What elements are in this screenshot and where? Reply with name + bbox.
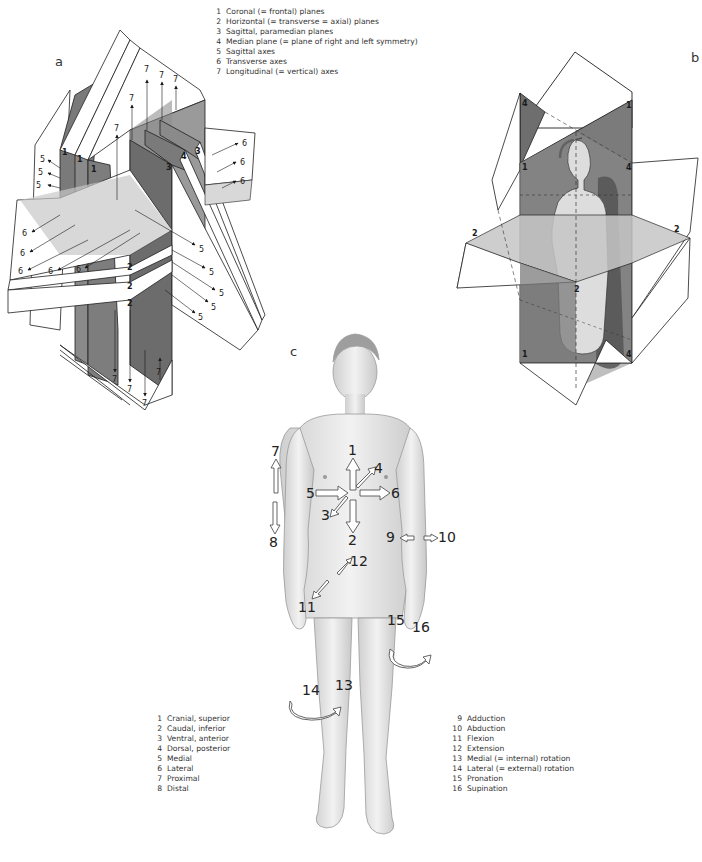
svg-text:6: 6	[18, 267, 23, 276]
legend-item: 5Medial	[154, 754, 230, 764]
svg-text:5: 5	[36, 181, 41, 190]
svg-text:5: 5	[211, 303, 216, 312]
svg-text:5: 5	[198, 313, 203, 322]
svg-text:6: 6	[48, 267, 53, 276]
svg-text:2: 2	[674, 225, 680, 234]
legend-item: 8Distal	[154, 784, 230, 794]
legend-item: 6Lateral	[154, 764, 230, 774]
svg-text:5: 5	[306, 485, 315, 501]
svg-text:5: 5	[38, 168, 43, 177]
svg-text:6: 6	[76, 265, 81, 274]
svg-text:7: 7	[173, 75, 178, 84]
svg-text:7: 7	[159, 71, 164, 80]
svg-text:1: 1	[91, 165, 97, 174]
svg-text:7: 7	[127, 385, 132, 394]
svg-text:10: 10	[438, 529, 456, 545]
svg-text:7: 7	[271, 443, 280, 459]
svg-text:2: 2	[127, 282, 133, 291]
human-figure	[280, 334, 427, 834]
diagram-a-planes-axes: 7 7 7 7 7 7 7 7 7 5 5 5 5 5 5 5 5 6 6 6 …	[0, 30, 270, 410]
legend-item: 4Dorsal, posterior	[154, 744, 230, 754]
svg-text:6: 6	[240, 158, 245, 167]
svg-text:1: 1	[77, 155, 83, 164]
svg-text:3: 3	[166, 163, 172, 172]
svg-text:5: 5	[219, 289, 224, 298]
svg-text:2: 2	[574, 285, 580, 294]
svg-text:6: 6	[240, 177, 245, 186]
svg-text:7: 7	[114, 124, 119, 133]
svg-text:4: 4	[374, 460, 383, 476]
svg-text:7: 7	[142, 399, 147, 408]
svg-text:2: 2	[472, 229, 478, 238]
svg-text:7: 7	[129, 94, 134, 103]
svg-text:2: 2	[348, 532, 357, 548]
svg-text:11: 11	[298, 599, 316, 615]
legend-item: 16Supination	[448, 784, 574, 794]
svg-text:1: 1	[626, 101, 632, 110]
svg-text:2: 2	[127, 263, 133, 272]
svg-text:5: 5	[199, 245, 204, 254]
svg-text:6: 6	[20, 249, 25, 258]
svg-text:3: 3	[321, 507, 330, 523]
svg-text:6: 6	[22, 229, 27, 238]
legend-item: 14Lateral (= external) rotation	[448, 764, 574, 774]
svg-text:1: 1	[62, 148, 68, 157]
arrow-distal-icon	[270, 502, 280, 534]
svg-text:13: 13	[335, 677, 353, 693]
legend-item: 2Caudal, inferior	[154, 724, 230, 734]
legend-item: 2Horizontal (= transverse = axial) plane…	[213, 17, 418, 27]
arrow-pronation-supination-icon	[389, 649, 431, 668]
svg-text:8: 8	[269, 534, 278, 550]
legend-item: 3Ventral, anterior	[154, 734, 230, 744]
svg-text:1: 1	[522, 163, 528, 172]
svg-text:5: 5	[40, 155, 45, 164]
svg-text:4: 4	[626, 163, 632, 172]
svg-text:14: 14	[302, 682, 320, 698]
svg-text:1: 1	[522, 350, 528, 359]
svg-text:2: 2	[127, 299, 133, 308]
svg-text:5: 5	[209, 268, 214, 277]
legend-item: 12Extension	[448, 744, 574, 754]
svg-text:4: 4	[181, 152, 187, 161]
legend-item: 13Medial (= internal) rotation	[448, 754, 574, 764]
svg-text:4: 4	[626, 350, 632, 359]
svg-text:12: 12	[350, 553, 368, 569]
legend-item: 10Abduction	[448, 724, 574, 734]
svg-text:7: 7	[112, 375, 117, 384]
svg-text:7: 7	[144, 65, 149, 74]
legend-item: 1Coronal (= frontal) planes	[213, 7, 418, 17]
svg-text:4: 4	[522, 99, 528, 108]
svg-text:3: 3	[195, 147, 201, 156]
legend-item: 15Pronation	[448, 774, 574, 784]
legend-movements: 9Adduction 10Abduction 11Flexion 12Exten…	[448, 714, 574, 794]
svg-text:15: 15	[387, 612, 405, 628]
svg-text:16: 16	[412, 619, 430, 635]
legend-item: 9Adduction	[448, 714, 574, 724]
svg-text:1: 1	[348, 442, 357, 458]
legend-item: 11Flexion	[448, 734, 574, 744]
legend-item: 7Proximal	[154, 774, 230, 784]
svg-text:6: 6	[242, 139, 247, 148]
legend-item: 1Cranial, superior	[154, 714, 230, 724]
svg-text:7: 7	[156, 368, 161, 377]
legend-directions: 1Cranial, superior 2Caudal, inferior 3Ve…	[154, 714, 230, 794]
svg-text:9: 9	[386, 529, 395, 545]
svg-text:6: 6	[391, 485, 400, 501]
